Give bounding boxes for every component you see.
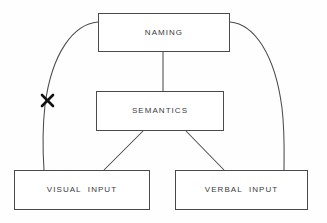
node-naming[interactable]: NAMING: [98, 13, 230, 52]
node-naming-label: NAMING: [145, 29, 183, 37]
node-verbal-input[interactable]: VERBAL INPUT: [175, 170, 308, 210]
node-semantics-label: SEMANTICS: [132, 107, 188, 115]
node-visual-input[interactable]: VISUAL INPUT: [14, 170, 150, 210]
edge-semantics-visual-input: [104, 131, 143, 170]
x-cross-icon: [42, 95, 53, 106]
node-visual-input-label: VISUAL INPUT: [47, 186, 117, 194]
node-verbal-input-label: VERBAL INPUT: [205, 186, 278, 194]
edge-semantics-verbal-input: [186, 131, 224, 170]
diagram-canvas: NAMING SEMANTICS VISUAL INPUT VERBAL INP…: [0, 0, 327, 223]
node-semantics[interactable]: SEMANTICS: [96, 91, 224, 131]
edge-naming-verbal-input: [230, 22, 284, 170]
